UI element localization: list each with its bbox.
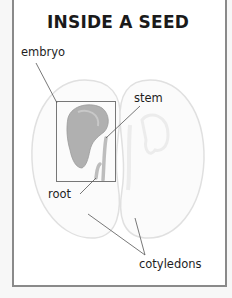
label-stem: stem — [134, 91, 163, 105]
label-embryo: embryo — [21, 45, 65, 59]
label-cotyledons: cotyledons — [139, 257, 202, 271]
embryo-leader — [36, 63, 57, 103]
label-root: root — [48, 187, 71, 201]
